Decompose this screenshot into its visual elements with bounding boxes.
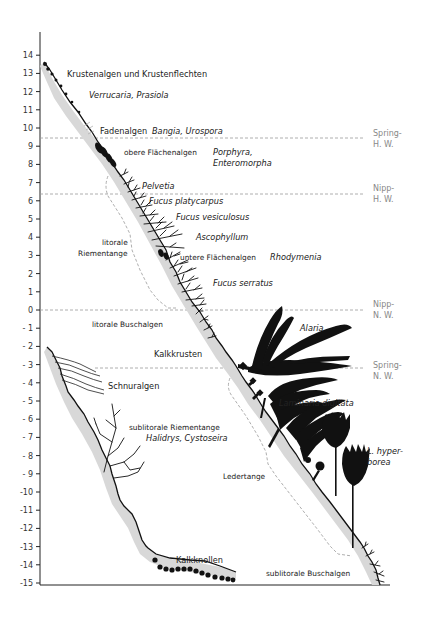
- tide-labels: Spring- H. W. Nipp- H. W. Nipp- N. W. Sp…: [373, 129, 402, 381]
- y-tick-label: - 5: [22, 397, 33, 406]
- spring-nw-label-2: N. W.: [373, 372, 394, 381]
- y-tick-label: - 2: [22, 342, 33, 351]
- y-tick-label: 11: [23, 106, 33, 115]
- nipp-hw-label-2: H. W.: [373, 195, 394, 204]
- label-litorale-riementange-1: litorale: [102, 238, 128, 247]
- label-fucus-platycarpus: Fucus platycarpus: [149, 196, 224, 206]
- label-ledertange: Ledertange: [223, 472, 266, 481]
- y-tick-label: 8: [28, 160, 33, 169]
- y-tick-label: - 6: [22, 415, 33, 424]
- label-verrucaria: Verrucaria, Prasiola: [89, 90, 169, 100]
- nipp-nw-label-1: Nipp-: [373, 300, 394, 309]
- zonation-diagram: 14131211109876543210- 1- 2- 3- 4- 5- 6- …: [0, 0, 434, 617]
- label-fucus-serratus: Fucus serratus: [213, 278, 274, 288]
- label-fucus-vesiculosus: Fucus vesiculosus: [176, 212, 250, 222]
- y-axis: 14131211109876543210- 1- 2- 3- 4- 5- 6- …: [20, 32, 40, 588]
- y-tick-label: - 4: [22, 379, 33, 388]
- label-porphyra: Porphyra,: [213, 147, 253, 157]
- label-pelvetia: Pelvetia: [142, 181, 175, 191]
- y-tick-label: - 8: [22, 452, 33, 461]
- y-tick-label: -13: [20, 543, 33, 552]
- label-litorale-riementange-2: Riementange: [78, 249, 128, 258]
- y-tick-label: - 1: [22, 324, 33, 333]
- label-sublitorale-riementange: sublitorale Riementange: [129, 423, 220, 432]
- rock-profile-main: [40, 62, 380, 585]
- y-tick-label: 10: [23, 124, 33, 133]
- label-krustenalgen: Krustenalgen und Krustenflechten: [67, 69, 207, 79]
- y-tick-label: -12: [20, 524, 33, 533]
- y-tick-label: 4: [28, 233, 33, 242]
- y-tick-label: -14: [20, 561, 33, 570]
- y-tick-label: -11: [20, 506, 33, 515]
- y-tick-label: 3: [28, 251, 33, 260]
- y-tick-label: 9: [28, 142, 33, 151]
- label-bangia: Bangia, Urospora: [152, 126, 223, 136]
- y-tick-label: -10: [20, 488, 33, 497]
- label-untere-flaechenalgen: untere Flächenalgen: [180, 253, 256, 262]
- label-kalkknollen: Kalkknollen: [176, 555, 223, 565]
- label-kalkkrusten: Kalkkrusten: [154, 349, 202, 359]
- label-enteromorpha: Enteromorpha: [213, 158, 272, 168]
- y-tick-label: 0: [28, 306, 33, 315]
- label-fadenalgen: Fadenalgen: [100, 126, 147, 136]
- spring-nw-label-1: Spring-: [373, 361, 402, 370]
- label-litorale-buschalgen: litorale Buschalgen: [92, 320, 163, 329]
- label-laminaria-digitata: Laminaria digitata: [279, 398, 354, 408]
- label-rhodymenia: Rhodymenia: [270, 252, 321, 262]
- nipp-nw-label-2: N. W.: [373, 311, 394, 320]
- label-schnuralgen: Schnuralgen: [108, 381, 159, 391]
- y-tick-label: 7: [28, 179, 33, 188]
- y-tick-label: - 9: [22, 470, 33, 479]
- y-tick-label: 13: [23, 69, 33, 78]
- spring-hw-label-1: Spring-: [373, 129, 402, 138]
- label-alaria: Alaria: [299, 323, 324, 333]
- y-tick-label: - 7: [22, 433, 33, 442]
- label-obere-flaechenalgen: obere Flächenalgen: [124, 148, 197, 157]
- label-borea: borea: [367, 457, 391, 467]
- y-tick-label: 6: [28, 197, 33, 206]
- label-sublitorale-buschalgen: sublitorale Buschalgen: [266, 569, 350, 578]
- y-tick-label: 1: [28, 288, 33, 297]
- y-tick-label: 2: [28, 270, 33, 279]
- label-l-hyper: L. hyper-: [367, 446, 403, 456]
- y-tick-label: 12: [23, 88, 33, 97]
- y-tick-label: 14: [23, 51, 33, 60]
- y-tick-label: -15: [20, 579, 33, 588]
- nipp-hw-label-1: Nipp-: [373, 184, 394, 193]
- spring-hw-label-2: H. W.: [373, 140, 394, 149]
- y-tick-label: 5: [28, 215, 33, 224]
- label-halidrys: Halidrys, Cystoseira: [146, 433, 228, 443]
- y-tick-label: - 3: [22, 361, 33, 370]
- label-ascophyllum: Ascophyllum: [195, 232, 248, 242]
